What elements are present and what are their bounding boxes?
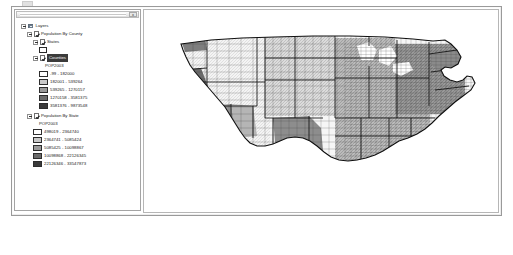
tree-label-states: States bbox=[47, 38, 59, 46]
expand-collapse-icon[interactable] bbox=[27, 32, 32, 37]
close-icon[interactable]: x bbox=[129, 12, 137, 17]
map-data-frame[interactable] bbox=[143, 9, 499, 213]
tree-label-population-by-state: Population By State bbox=[41, 112, 79, 120]
legend-row-states-symbol bbox=[16, 46, 139, 54]
legend-class-row: 539265 - 1270157 bbox=[16, 86, 139, 94]
expand-collapse-icon[interactable] bbox=[33, 56, 38, 61]
legend-class-label: 182001 - 539264 bbox=[50, 78, 83, 86]
legend-swatch bbox=[39, 103, 48, 109]
expand-collapse-icon[interactable] bbox=[21, 24, 26, 29]
layer-visibility-checkbox[interactable] bbox=[40, 39, 46, 45]
legend-field-state: POP2003 bbox=[16, 120, 139, 128]
legend-field-label: POP2003 bbox=[45, 62, 64, 70]
legend-swatch bbox=[33, 153, 42, 159]
legend-class-label: 539265 - 1270157 bbox=[50, 86, 85, 94]
table-of-contents-panel: x Layers Populati bbox=[14, 9, 141, 211]
layer-visibility-checkbox[interactable] bbox=[34, 113, 40, 119]
legend-class-label: 3581376 - 9873548 bbox=[50, 102, 87, 110]
legend-class-row: 498019 - 2364740 bbox=[16, 128, 139, 136]
legend-class-row: 5085425 - 10098867 bbox=[16, 144, 139, 152]
legend-class-label: 1270158 - 3581375 bbox=[50, 94, 87, 102]
tree-label-layers: Layers bbox=[36, 22, 49, 30]
legend-swatch bbox=[33, 137, 42, 143]
layer-visibility-checkbox[interactable] bbox=[34, 31, 40, 37]
legend-class-row: 3581376 - 9873548 bbox=[16, 102, 139, 110]
legend-class-label: 5085425 - 10098867 bbox=[44, 144, 84, 152]
screenshot-root: x Layers Populati bbox=[0, 0, 513, 255]
tree-node-population-by-state[interactable]: Population By State bbox=[16, 112, 139, 120]
legend-swatch bbox=[33, 161, 42, 167]
tree-label-population-by-county: Population By County bbox=[41, 30, 82, 38]
expand-collapse-icon[interactable] bbox=[33, 40, 38, 45]
legend-class-row: 1270158 - 3581375 bbox=[16, 94, 139, 102]
legend-class-row: 22126346 - 33547873 bbox=[16, 160, 139, 168]
legend-class-row: 2364741 - 5085424 bbox=[16, 136, 139, 144]
toc-titlebar[interactable]: x bbox=[16, 11, 139, 18]
legend-class-label: 22126346 - 33547873 bbox=[44, 160, 86, 168]
tree-node-layers[interactable]: Layers bbox=[16, 22, 139, 30]
legend-field-label: POP2003 bbox=[39, 120, 58, 128]
legend-swatch bbox=[39, 79, 48, 85]
tree-label-counties: Counties bbox=[47, 54, 68, 62]
legend-class-label: 10098868 - 22126345 bbox=[44, 152, 86, 160]
tree-node-population-by-county[interactable]: Population By County bbox=[16, 30, 139, 38]
legend-class-label: -99 - 182000 bbox=[50, 70, 74, 78]
legend-swatch bbox=[39, 95, 48, 101]
hollow-outline-swatch bbox=[39, 47, 47, 53]
tree-node-states[interactable]: States bbox=[16, 38, 139, 46]
legend-class-row: 10098868 - 22126345 bbox=[16, 152, 139, 160]
legend-class-row: 182001 - 539264 bbox=[16, 78, 139, 86]
map-canvas[interactable] bbox=[144, 10, 498, 212]
tree-node-counties[interactable]: Counties bbox=[16, 54, 139, 62]
legend-field-counties: POP2003 bbox=[16, 62, 139, 70]
united-states-county-map bbox=[144, 10, 498, 212]
legend-swatch bbox=[39, 71, 48, 77]
expand-collapse-icon[interactable] bbox=[27, 114, 32, 119]
layers-icon bbox=[28, 23, 34, 29]
layer-visibility-checkbox[interactable] bbox=[40, 55, 46, 61]
gis-application-window: x Layers Populati bbox=[11, 6, 502, 216]
drag-grip-icon[interactable] bbox=[20, 13, 126, 16]
layer-tree: Layers Population By County St bbox=[16, 20, 139, 168]
legend-swatch bbox=[39, 87, 48, 93]
legend-class-label: 2364741 - 5085424 bbox=[44, 136, 81, 144]
legend-swatch bbox=[33, 129, 42, 135]
legend-swatch bbox=[33, 145, 42, 151]
legend-class-label: 498019 - 2364740 bbox=[44, 128, 79, 136]
legend-class-row: -99 - 182000 bbox=[16, 70, 139, 78]
toc-body[interactable]: Layers Population By County St bbox=[16, 20, 139, 209]
